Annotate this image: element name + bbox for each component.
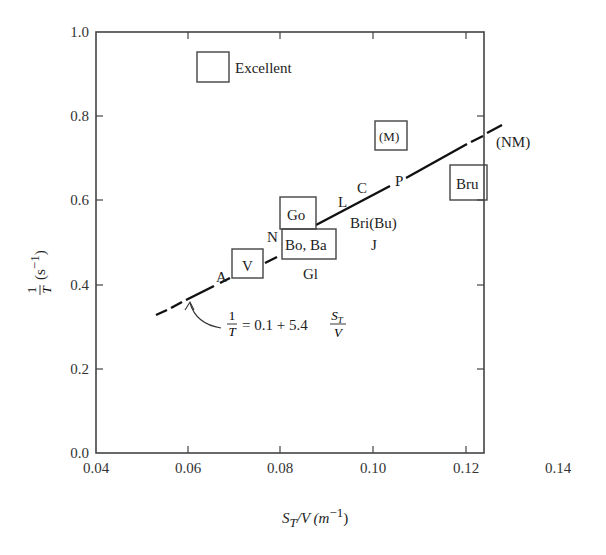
x-tick-label: 0.10	[360, 460, 386, 476]
x-axis-title: ST/V (m−1)	[282, 505, 348, 530]
svg-text:= 0.1 + 5.4: = 0.1 + 5.4	[242, 317, 308, 333]
svg-text:1: 1	[24, 287, 39, 294]
x-ticks	[188, 32, 466, 453]
svg-text:1: 1	[229, 308, 236, 323]
y-axis-title: 1 T (s−1)	[24, 250, 54, 295]
label-L: L	[338, 194, 347, 210]
label-V: V	[242, 258, 253, 274]
x-tick-label: 0.14	[545, 460, 572, 476]
label-BriBu: Bri(Bu)	[350, 215, 397, 232]
y-tick-label: 0.4	[70, 277, 89, 293]
label-Bru: Bru	[456, 176, 479, 192]
legend-box-marker	[197, 52, 229, 82]
y-tick-label: 0.0	[70, 445, 89, 461]
label-Go: Go	[287, 207, 305, 223]
label-P: P	[395, 173, 403, 189]
label-M: (M)	[379, 129, 399, 144]
svg-text:T: T	[228, 324, 236, 339]
legend-label: Excellent	[235, 60, 292, 76]
svg-text:ST: ST	[331, 308, 344, 325]
svg-text:T: T	[39, 286, 54, 294]
x-tick-label: 0.06	[175, 460, 202, 476]
y-tick-label: 0.8	[70, 108, 89, 124]
boxed-points	[232, 121, 487, 278]
y-tick-label: 0.2	[70, 361, 89, 377]
legend: Excellent	[197, 52, 292, 82]
x-tick-label: 0.12	[453, 460, 479, 476]
label-C: C	[357, 180, 367, 196]
label-A: A	[216, 269, 227, 285]
label-NM: (NM)	[496, 134, 530, 151]
x-tick-labels: 0.04 0.06 0.08 0.10 0.12 0.14	[83, 460, 572, 476]
label-J: J	[371, 237, 377, 253]
arrow-curve	[190, 303, 221, 328]
svg-text:V: V	[334, 325, 344, 340]
y-tick-label: 1.0	[70, 24, 89, 40]
label-N: N	[267, 229, 278, 245]
label-BoBa: Bo, Ba	[285, 237, 327, 253]
y-tick-labels: 0.0 0.2 0.4 0.6 0.8 1.0	[70, 24, 89, 461]
svg-text:(s−1): (s−1)	[27, 250, 49, 280]
svg-text:ST/V (m−1): ST/V (m−1)	[282, 505, 348, 530]
x-tick-label: 0.08	[267, 460, 293, 476]
equation-annotation: 1 T = 0.1 + 5.4 ST V	[185, 302, 346, 340]
chart: 0.04 0.06 0.08 0.10 0.12 0.14 0.0 0.2 0.…	[0, 0, 606, 555]
fit-line	[156, 125, 502, 315]
y-tick-label: 0.6	[70, 192, 89, 208]
x-tick-label: 0.04	[83, 460, 110, 476]
label-Gl: Gl	[303, 266, 318, 282]
